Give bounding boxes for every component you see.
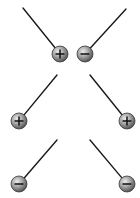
pair-3-left-pendulum: -	[11, 140, 57, 192]
pair-1-attract: +-	[23, 8, 126, 62]
pair-3-repel: --	[11, 140, 135, 192]
pair-2-right-pendulum: +	[90, 75, 135, 129]
thread-line	[90, 140, 122, 179]
pair-3-right-pendulum: -	[90, 140, 135, 192]
pair-1-left-pendulum: +	[23, 8, 68, 62]
thread-line	[23, 8, 56, 49]
thread-line	[24, 140, 57, 179]
pair-2-repel: ++	[11, 75, 135, 129]
thread-line	[90, 9, 126, 49]
charged-spheres-diagram: +-++--	[0, 0, 140, 198]
pair-1-right-pendulum: -	[77, 9, 126, 62]
pair-2-left-pendulum: +	[11, 75, 57, 129]
thread-line	[23, 75, 57, 116]
thread-line	[90, 75, 123, 116]
